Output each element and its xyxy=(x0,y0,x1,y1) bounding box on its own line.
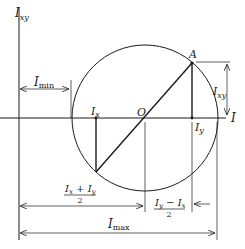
center-label: O xyxy=(137,106,146,119)
horizontal-axis-label: I xyxy=(230,111,236,125)
vertical-axis-label: Ixy xyxy=(14,6,29,22)
point-iy xyxy=(191,117,194,120)
point-a-label: A xyxy=(188,48,197,61)
svg-text:2: 2 xyxy=(166,210,171,219)
ixy-dimension-label: Ixy xyxy=(212,85,227,100)
half-difference-formula-label: Iy − Ix 2 xyxy=(154,197,186,219)
mohr-circle-diagram: Ixy I O A Ix Iy Imin Ixy Ix + Iy 2 Iy − … xyxy=(0,0,245,249)
iy-label: Iy xyxy=(194,121,204,135)
imin-label: Imin xyxy=(33,75,54,90)
average-formula-label: Ix + Iy 2 xyxy=(64,183,97,205)
svg-text:Iy − Ix: Iy − Ix xyxy=(154,197,186,210)
imax-label: Imax xyxy=(107,217,130,232)
ix-label: Ix xyxy=(90,105,100,119)
point-a xyxy=(190,61,193,64)
svg-text:Ix + Iy: Ix + Iy xyxy=(64,183,97,196)
svg-text:2: 2 xyxy=(77,196,82,205)
